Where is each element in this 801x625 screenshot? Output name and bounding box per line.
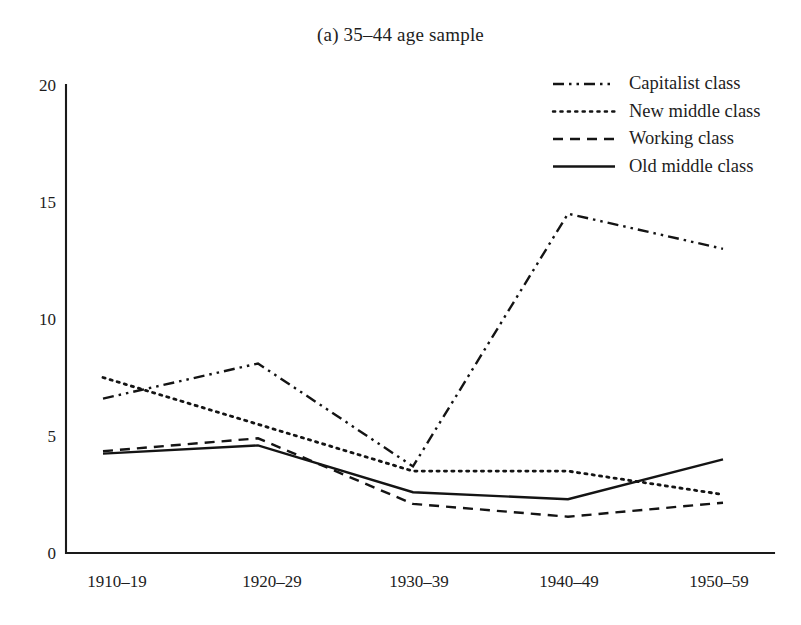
x-tick-label: 1930–39: [389, 572, 449, 591]
legend-label: Working class: [629, 128, 734, 148]
series-line-old-middle-class: [103, 445, 723, 499]
legend-label: New middle class: [629, 101, 761, 121]
y-tick-label: 20: [39, 76, 56, 95]
x-tick-label: 1920–29: [242, 572, 302, 591]
legend-label: Capitalist class: [629, 73, 741, 93]
y-tick-label: 10: [39, 310, 56, 329]
x-tick-label: 1940–49: [539, 572, 599, 591]
y-tick-label: 5: [48, 427, 57, 446]
chart-legend: Capitalist classNew middle classWorking …: [553, 73, 761, 176]
series-line-capitalist-class: [103, 214, 723, 467]
line-chart: 20 15 10 5 0 1910–19 1920–29 1930–39 194…: [0, 0, 801, 625]
x-tick-label: 1950–59: [689, 572, 749, 591]
series-line-working-class: [103, 438, 723, 516]
x-tick-label: 1910–19: [87, 572, 147, 591]
series-layer: [103, 214, 723, 517]
series-line-new-middle-class: [103, 378, 723, 495]
y-tick-label: 15: [39, 193, 56, 212]
legend-label: Old middle class: [629, 156, 753, 176]
y-axis-ticks: 20 15 10 5 0: [39, 76, 56, 563]
figure-panel: (a) 35–44 age sample 20 15 10 5 0 1910–1…: [0, 0, 801, 625]
y-tick-label: 0: [48, 544, 57, 563]
x-axis-ticks: 1910–19 1920–29 1930–39 1940–49 1950–59: [87, 572, 749, 591]
